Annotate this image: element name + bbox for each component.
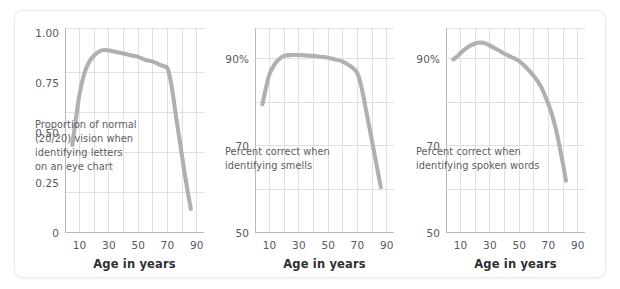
panel-annotation-smell: Percent correct when identifying smells <box>225 145 330 173</box>
y-tick-label: 0 <box>52 227 59 239</box>
x-tick-label: 10 <box>263 239 277 251</box>
plot-area-speech: 50 70 90% 10 30 50 70 90 Age in years <box>446 28 585 233</box>
panel-annotation-speech: Percent correct when identifying spoken … <box>416 145 539 173</box>
chart-panel-smell: 50 70 90% 10 30 50 70 90 Age in years Pe… <box>211 11 401 279</box>
y-tick-label: 90% <box>416 53 440 65</box>
y-tick-label: 50 <box>235 227 249 239</box>
y-tick-label: 0.75 <box>35 77 59 89</box>
x-tick-label: 90 <box>380 239 394 251</box>
x-axis-title: Age in years <box>93 257 175 271</box>
x-tick-label: 50 <box>512 239 526 251</box>
chart-panel-speech: 50 70 90% 10 30 50 70 90 Age in years Pe… <box>402 11 592 279</box>
x-tick-label: 50 <box>321 239 335 251</box>
y-tick-label: 1.00 <box>35 27 59 39</box>
x-tick-label: 90 <box>190 239 204 251</box>
x-tick-label: 70 <box>161 239 175 251</box>
x-axis-title: Age in years <box>283 257 365 271</box>
x-tick-label: 10 <box>454 239 468 251</box>
chart-panel-vision: 0 0.25 0.50 0.75 1.00 10 30 50 70 90 Age… <box>21 11 211 279</box>
x-tick-label: 30 <box>483 239 497 251</box>
x-tick-label: 70 <box>542 239 556 251</box>
x-tick-label: 30 <box>292 239 306 251</box>
x-tick-label: 90 <box>571 239 585 251</box>
plot-area-smell: 50 70 90% 10 30 50 70 90 Age in years <box>255 28 394 233</box>
x-tick-label: 50 <box>131 239 145 251</box>
x-tick-label: 70 <box>351 239 365 251</box>
figure-card: 0 0.25 0.50 0.75 1.00 10 30 50 70 90 Age… <box>14 10 606 278</box>
panel-annotation-vision: Proportion of normal (20/20) vision when… <box>35 118 137 174</box>
y-tick-label: 90% <box>225 53 249 65</box>
x-tick-label: 30 <box>102 239 116 251</box>
y-tick-label: 50 <box>426 227 440 239</box>
x-tick-label: 10 <box>73 239 87 251</box>
x-axis-title: Age in years <box>474 257 556 271</box>
y-tick-label: 0.25 <box>35 177 59 189</box>
line-chart-speech <box>446 28 585 233</box>
line-chart-smell <box>255 28 394 233</box>
panel-group: 0 0.25 0.50 0.75 1.00 10 30 50 70 90 Age… <box>15 11 607 279</box>
